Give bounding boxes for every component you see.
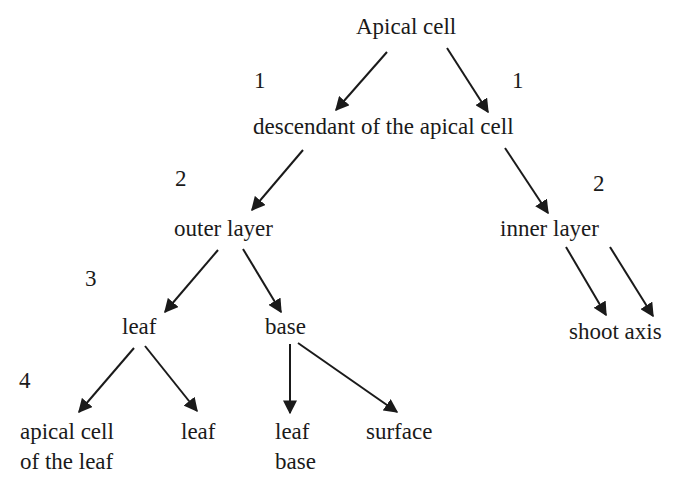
level-label-4: 4 bbox=[19, 368, 31, 394]
node-descendant-of-apical-cell: descendant of the apical cell bbox=[253, 114, 514, 140]
edge-descendant-to-outer-layer bbox=[252, 150, 303, 210]
node-apical-cell-of-the-leaf: apical cell of the leaf bbox=[20, 417, 114, 477]
node-apical-cell-of-the-leaf-line1: apical cell bbox=[20, 417, 114, 447]
edge-leaf-to-leaf bbox=[145, 346, 197, 411]
node-inner-layer: inner layer bbox=[500, 216, 599, 242]
node-leaf-base-line1: leaf bbox=[275, 417, 316, 447]
node-leaf: leaf bbox=[122, 314, 156, 340]
level-label-3: 3 bbox=[85, 266, 97, 292]
node-leaf-base: leaf base bbox=[275, 417, 316, 477]
edge-inner-layer-to-shoot-axis-1 bbox=[566, 247, 606, 315]
cell-lineage-diagram: Apical cell descendant of the apical cel… bbox=[0, 0, 695, 504]
level-label-1-left: 1 bbox=[254, 68, 266, 94]
edge-descendant-to-inner-layer bbox=[505, 148, 548, 213]
node-shoot-axis: shoot axis bbox=[569, 319, 662, 345]
node-base: base bbox=[265, 314, 306, 340]
node-outer-layer: outer layer bbox=[174, 216, 273, 242]
level-label-2-right: 2 bbox=[593, 171, 605, 197]
node-surface: surface bbox=[366, 419, 432, 445]
edge-outer-layer-to-leaf bbox=[165, 250, 218, 312]
edge-leaf-to-apical-cell-of-leaf bbox=[79, 348, 134, 412]
edge-outer-layer-to-base bbox=[243, 249, 281, 312]
node-apical-cell-of-the-leaf-line2: of the leaf bbox=[20, 447, 114, 477]
level-label-1-right: 1 bbox=[512, 68, 524, 94]
edge-base-to-surface bbox=[298, 343, 397, 412]
edge-apical-to-descendant-left bbox=[336, 52, 387, 110]
node-leaf-child: leaf bbox=[181, 419, 215, 445]
level-label-2-left: 2 bbox=[175, 166, 187, 192]
edge-inner-layer-to-shoot-axis-2 bbox=[610, 247, 653, 316]
node-leaf-base-line2: base bbox=[275, 447, 316, 477]
edge-apical-to-descendant-right bbox=[447, 48, 488, 112]
node-apical-cell: Apical cell bbox=[356, 14, 456, 40]
